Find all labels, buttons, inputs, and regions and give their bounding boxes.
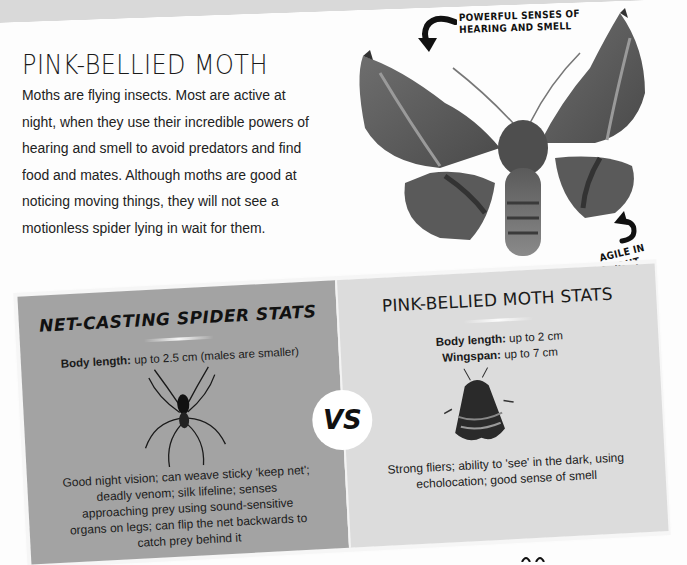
spider-icon <box>136 364 231 469</box>
callout-senses: POWERFUL SENSES OF HEARING AND SMELL <box>459 8 581 36</box>
spider-description: Good night vision; can weave sticky 'kee… <box>27 460 349 557</box>
intro-paragraph: Moths are flying insects. Most are activ… <box>22 82 319 241</box>
curved-arrow-icon <box>415 14 457 54</box>
spider-stats-title: NET-CASTING SPIDER STATS <box>18 300 337 337</box>
moth-thorax <box>498 120 548 176</box>
spider-stats-panel: NET-CASTING SPIDER STATS Body length: up… <box>17 280 349 564</box>
page-title: PINK-BELLIED MOTH <box>22 50 268 80</box>
decorative-mark-icon <box>520 552 550 562</box>
divider <box>144 336 214 343</box>
stat-label: Wingspan: <box>442 349 501 364</box>
curved-arrow-icon <box>612 209 642 245</box>
vs-badge: VS <box>312 390 372 450</box>
moth-description: Strong fliers; ability to 'see' in the d… <box>347 447 666 496</box>
moth-stats-panel: PINK-BELLIED MOTH STATS Body length: up … <box>335 263 669 547</box>
comparison-card: NET-CASTING SPIDER STATS Body length: up… <box>17 264 666 565</box>
stat-label: Body length: <box>435 332 506 348</box>
stat-value: up to 2 cm <box>509 329 563 344</box>
moth-abdomen <box>505 168 541 256</box>
stat-label: Body length: <box>60 354 131 370</box>
moth-icon <box>442 366 526 450</box>
stat-value: up to 2.5 cm (males are smaller) <box>134 345 299 366</box>
divider <box>463 317 533 324</box>
stat-value: up to 7 cm <box>504 346 558 361</box>
moth-stats-title: PINK-BELLIED MOTH STATS <box>338 281 657 318</box>
